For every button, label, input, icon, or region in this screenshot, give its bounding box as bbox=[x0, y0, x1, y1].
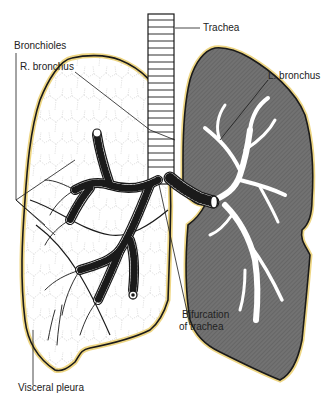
label-r-bronchus: R. bronchus bbox=[20, 61, 74, 72]
label-bronchioles: Bronchioles bbox=[14, 40, 66, 51]
label-bifurcation-line2: of trachea bbox=[179, 321, 223, 332]
label-bifurcation-line1: Bifurcation bbox=[182, 309, 229, 320]
label-l-bronchus: L. bronchus bbox=[268, 70, 320, 81]
label-visceral-pleura: Visceral pleura bbox=[18, 382, 84, 393]
label-trachea: Trachea bbox=[203, 22, 239, 33]
trachea bbox=[148, 14, 174, 184]
